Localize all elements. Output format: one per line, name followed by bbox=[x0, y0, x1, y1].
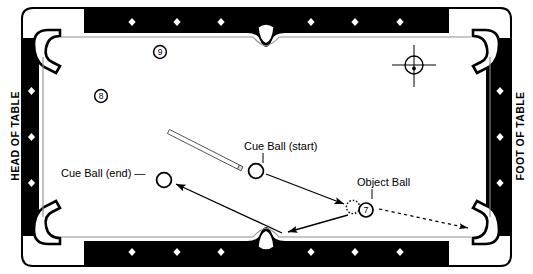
ball-8: 8 bbox=[95, 90, 108, 103]
pool-table-graphic: 9 8 7 bbox=[0, 0, 533, 274]
ball-9: 9 bbox=[154, 46, 167, 59]
cue-ball-end-label: Cue Ball (end) — bbox=[61, 167, 145, 179]
pool-table-diagram: 9 8 7 Cue Ball (start) Cue Ball (end) — … bbox=[0, 0, 533, 274]
playing-surface bbox=[39, 33, 486, 241]
cue-ball-start-label: Cue Ball (start) bbox=[244, 140, 317, 152]
ball-7-number: 7 bbox=[363, 205, 368, 215]
ball-9-number: 9 bbox=[158, 47, 163, 57]
object-ball-ghost-circle bbox=[346, 200, 359, 213]
foot-of-table-label: FOOT OF TABLE bbox=[514, 88, 526, 184]
ball-7: 7 bbox=[359, 203, 373, 217]
cloth bbox=[39, 33, 486, 241]
foot-spot-dot bbox=[412, 67, 416, 71]
head-of-table-label: HEAD OF TABLE bbox=[9, 88, 21, 184]
ball-8-number: 8 bbox=[99, 91, 104, 101]
object-ball-label: Object Ball bbox=[357, 176, 410, 188]
cue-ball-end-circle bbox=[157, 173, 172, 188]
cue-ball-start-circle bbox=[249, 164, 264, 179]
